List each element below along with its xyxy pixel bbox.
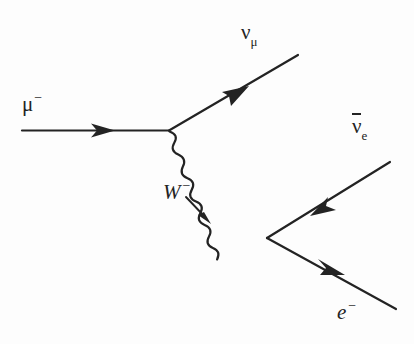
label-electron-antineutrino: νe <box>352 116 367 140</box>
muon-neutrino-symbol: ν <box>241 20 251 44</box>
electron-charge: − <box>347 298 356 313</box>
w-boson-symbol: W <box>163 180 181 204</box>
muon-charge: − <box>34 90 42 105</box>
electron-symbol: e <box>337 300 346 324</box>
muon-neutrino-line <box>169 55 298 131</box>
electron-antineutrino-line <box>267 162 390 238</box>
label-w-boson: W− <box>163 180 190 203</box>
muon-line <box>22 124 169 138</box>
overbar-icon <box>352 113 361 115</box>
electron-antineutrino-subscript: e <box>362 128 368 143</box>
muon-symbol: μ <box>22 92 33 116</box>
feynman-diagram-canvas <box>0 0 414 344</box>
label-electron: e− <box>337 300 356 323</box>
electron-antineutrino-symbol: ν <box>352 114 362 138</box>
muon-neutrino-subscript: μ <box>251 34 258 49</box>
electron-line <box>267 238 396 309</box>
w-boson-charge: − <box>182 178 191 193</box>
antineutrino-overbar-group: ν <box>352 116 362 137</box>
label-muon-neutrino: νμ <box>241 22 257 46</box>
label-muon: μ− <box>22 92 41 115</box>
feynman-diagram-figure: μ− νμ W− νe e− <box>0 0 414 344</box>
